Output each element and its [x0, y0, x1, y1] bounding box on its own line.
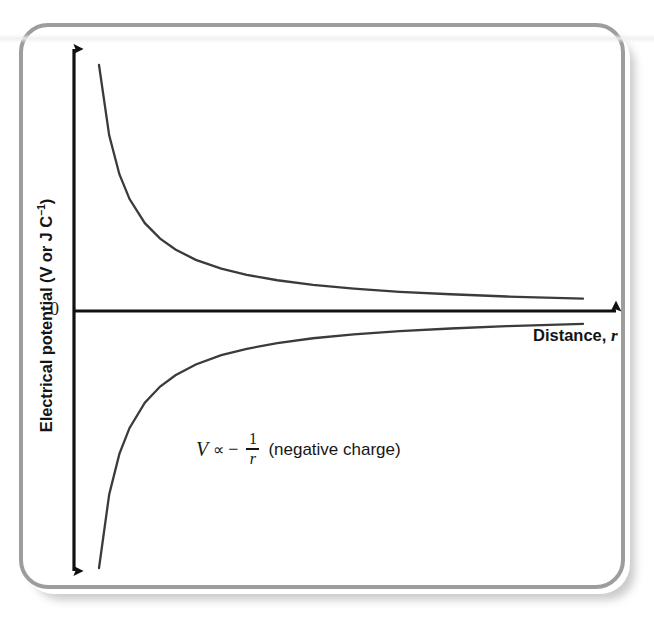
y-axis-title-close-paren: ) — [37, 199, 55, 204]
equation-proportional-sign: ∝ — [213, 440, 228, 459]
curve-positive-charge — [99, 65, 583, 299]
equation-fraction: 1 r — [246, 431, 259, 467]
equation-fraction-numerator: 1 — [249, 431, 257, 448]
equation-minus-sign: − — [228, 439, 242, 460]
x-axis-title-variable: r — [611, 326, 618, 345]
y-axis-title-superscript: −1 — [35, 204, 47, 216]
figure-container: 0 Electrical potential (V or J C−1) Dist… — [0, 0, 654, 623]
equation-trailing-text: (negative charge) — [263, 440, 400, 460]
x-axis-title-text: Distance, — [533, 326, 606, 344]
equation-fraction-denominator: r — [250, 450, 256, 467]
y-axis-title: Electrical potential (V or J C−1) — [37, 166, 56, 466]
y-axis-title-text: Electrical potential (V or J C — [37, 216, 55, 432]
x-axis-title: Distance, r — [533, 326, 618, 346]
equation-variable-v: V — [196, 438, 213, 461]
equation-annotation: V ∝ − 1 r (negative charge) — [196, 432, 401, 468]
plot-area — [0, 0, 654, 623]
